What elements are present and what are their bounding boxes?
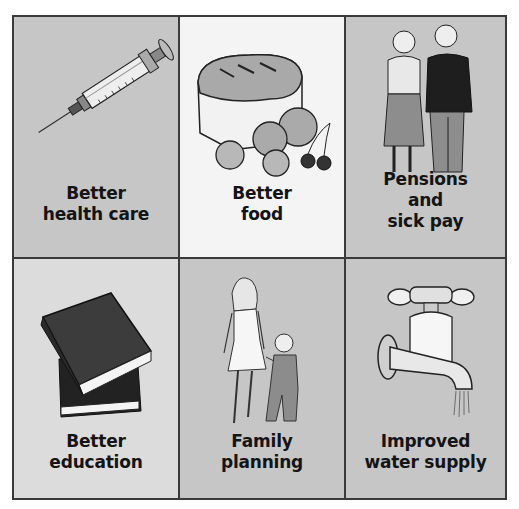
syringe-icon <box>24 25 184 155</box>
panel-family-planning: Family planning <box>180 259 346 498</box>
panel-health-care: Better health care <box>14 17 180 259</box>
panel-food: Better food <box>180 17 346 259</box>
caption-food: Better food <box>180 183 344 225</box>
panel-education: Better education <box>14 259 180 498</box>
caption-health-care: Better health care <box>14 183 178 225</box>
bread-and-fruit-icon <box>190 37 340 177</box>
caption-water-supply: Improved water supply <box>346 431 505 473</box>
books-icon <box>39 289 159 419</box>
caption-pensions: Pensions and sick pay <box>346 169 505 232</box>
panel-water-supply: Improved water supply <box>346 259 505 498</box>
caption-education: Better education <box>14 431 178 473</box>
elderly-couple-icon <box>376 22 486 182</box>
mother-and-child-icon <box>218 271 318 431</box>
caption-family-planning: Family planning <box>180 431 344 473</box>
water-tap-icon <box>376 277 486 417</box>
panel-pensions: Pensions and sick pay <box>346 17 505 259</box>
benefits-grid: Better health care Better food <box>12 15 507 500</box>
